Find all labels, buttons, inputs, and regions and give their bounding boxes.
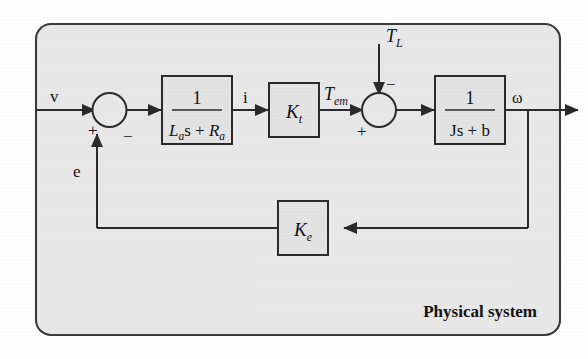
label-current: i (243, 88, 248, 107)
physical-system-caption: Physical system (423, 302, 537, 321)
sign-minus-summer1: − (123, 127, 133, 146)
block-mechanical-denominator: Js + b (450, 121, 490, 140)
physical-system-panel (36, 24, 560, 335)
sign-plus-summer2: + (357, 122, 367, 141)
summing-junction-voltage (93, 93, 127, 127)
block-diagram: v + − e 1 Las + Ra i Kt Tem TL − + 1 Js … (0, 0, 588, 359)
figure-canvas: v + − e 1 Las + Ra i Kt Tem TL − + 1 Js … (0, 0, 588, 359)
sign-plus-summer1: + (88, 121, 98, 140)
sign-minus-summer2: − (386, 75, 396, 94)
summing-junction-torque (362, 93, 396, 127)
label-back-emf: e (73, 162, 81, 181)
block-electrical-numerator: 1 (193, 88, 202, 108)
block-electrical-denominator: Las + Ra (168, 121, 225, 142)
label-output-speed: ω (512, 89, 523, 106)
label-input-voltage: v (50, 87, 59, 106)
block-mechanical-numerator: 1 (466, 88, 475, 108)
